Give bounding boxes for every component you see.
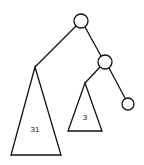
right-child-node [98,55,112,69]
edge-right-child-to-right-leaf [109,68,125,98]
tree-diagram: 31 3 [0,0,144,165]
inner-subtree-triangle [68,83,102,131]
tree-svg [0,0,144,165]
right-leaf-node [122,98,134,110]
root-node [74,14,88,28]
edge-right-child-to-inner-subtree [85,67,100,83]
inner-subtree-label: 3 [83,113,87,122]
left-subtree-triangle [11,67,61,155]
edge-root-to-right-child [85,27,101,56]
left-subtree-label: 31 [31,125,40,134]
edge-root-to-left-subtree [35,26,76,67]
